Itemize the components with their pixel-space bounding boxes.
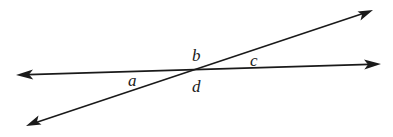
intersecting-lines-diagram: a b c d: [0, 0, 393, 137]
diagonal-line: [26, 10, 373, 126]
angle-label-c: c: [250, 51, 258, 70]
angle-label-d: d: [192, 77, 201, 96]
angle-label-b: b: [192, 46, 201, 65]
angle-label-a: a: [128, 71, 137, 90]
